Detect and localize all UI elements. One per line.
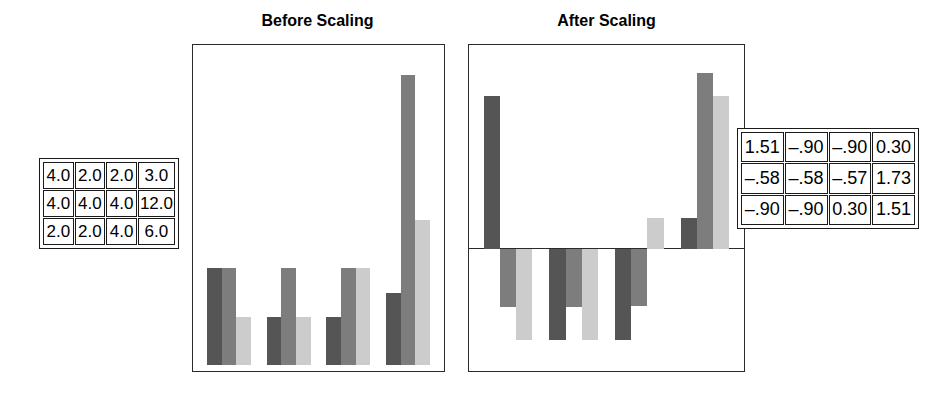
table-cell: 1.51 (741, 132, 784, 162)
table-cell: 1.51 (872, 195, 915, 225)
bar-series-1-group-2 (267, 317, 282, 365)
bar-series-1-group-4 (386, 293, 401, 365)
table-cell: 4.0 (106, 190, 137, 217)
table-row: –.90–.900.301.51 (741, 195, 915, 225)
after-table-body: 1.51–.90–.900.30–.58–.58–.571.73–.90–.90… (741, 132, 915, 225)
table-cell: –.90 (741, 195, 784, 225)
table-cell: 0.30 (829, 195, 872, 225)
table-cell: 0.30 (872, 132, 915, 162)
chart-title-after-scaling: After Scaling (468, 12, 745, 30)
bar-series-3-group-2 (582, 249, 598, 340)
bar-series-1-group-3 (615, 249, 631, 340)
chart-plot-after-scaling (468, 44, 745, 372)
bar-series-3-group-4 (713, 96, 729, 249)
table-cell: 4.0 (106, 218, 137, 245)
bar-series-2-group-3 (341, 268, 356, 365)
chart-plot-before-scaling (192, 44, 445, 372)
table-cell: –.90 (785, 132, 828, 162)
before-table-body: 4.02.02.03.04.04.04.012.02.02.04.06.0 (43, 162, 175, 245)
bar-series-1-group-1 (207, 268, 222, 365)
table-cell: 4.0 (75, 190, 106, 217)
bar-series-2-group-4 (401, 75, 416, 365)
table-cell: –.90 (785, 195, 828, 225)
bar-series-2-group-2 (566, 249, 582, 308)
table-cell: 1.73 (872, 163, 915, 193)
bar-series-3-group-1 (516, 249, 532, 340)
table-cell: –.90 (829, 132, 872, 162)
bar-series-3-group-4 (415, 220, 430, 365)
table-cell: –.57 (829, 163, 872, 193)
table-row: 4.02.02.03.0 (43, 162, 175, 189)
table-cell: 12.0 (138, 190, 175, 217)
table-cell: 4.0 (43, 190, 74, 217)
bar-series-2-group-2 (281, 268, 296, 365)
bar-series-3-group-3 (647, 218, 663, 248)
table-cell: –.58 (785, 163, 828, 193)
plot-area-after (469, 45, 744, 371)
after-table-grid: 1.51–.90–.900.30–.58–.58–.571.73–.90–.90… (740, 131, 916, 226)
bar-series-1-group-4 (681, 218, 697, 248)
table-row: 2.02.04.06.0 (43, 218, 175, 245)
table-row: 4.04.04.012.0 (43, 190, 175, 217)
table-cell: 2.0 (75, 162, 106, 189)
bar-series-2-group-1 (500, 249, 516, 308)
bar-series-1-group-2 (549, 249, 565, 340)
table-cell: 3.0 (138, 162, 175, 189)
table-cell: 2.0 (43, 218, 74, 245)
table-cell: 2.0 (106, 162, 137, 189)
before-table-grid: 4.02.02.03.04.04.04.012.02.02.04.06.0 (42, 161, 176, 246)
table-cell: 4.0 (43, 162, 74, 189)
bar-series-2-group-1 (222, 268, 237, 365)
table-cell: –.58 (741, 163, 784, 193)
chart-title-before-scaling: Before Scaling (190, 12, 445, 30)
table-row: –.58–.58–.571.73 (741, 163, 915, 193)
before-scaling-data-table: 4.02.02.03.04.04.04.012.02.02.04.06.0 (39, 158, 179, 249)
bar-series-1-group-1 (484, 96, 500, 249)
bar-series-3-group-1 (236, 317, 251, 365)
bar-series-2-group-3 (631, 249, 647, 307)
table-cell: 6.0 (138, 218, 175, 245)
table-row: 1.51–.90–.900.30 (741, 132, 915, 162)
after-scaling-data-table: 1.51–.90–.900.30–.58–.58–.571.73–.90–.90… (737, 128, 919, 229)
bar-series-3-group-2 (296, 317, 311, 365)
bar-series-2-group-4 (697, 73, 713, 248)
plot-area-before (193, 45, 444, 371)
bar-series-1-group-3 (326, 317, 341, 365)
bar-series-3-group-3 (356, 268, 371, 365)
table-cell: 2.0 (75, 218, 106, 245)
